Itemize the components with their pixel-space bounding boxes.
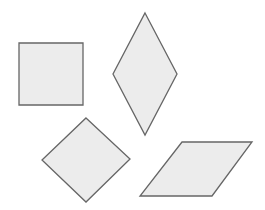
diamond-shape (42, 118, 130, 202)
shapes-canvas (0, 0, 265, 210)
parallelogram-shape (140, 142, 252, 196)
square-shape (19, 43, 83, 105)
tall-rhombus-shape (113, 13, 177, 135)
